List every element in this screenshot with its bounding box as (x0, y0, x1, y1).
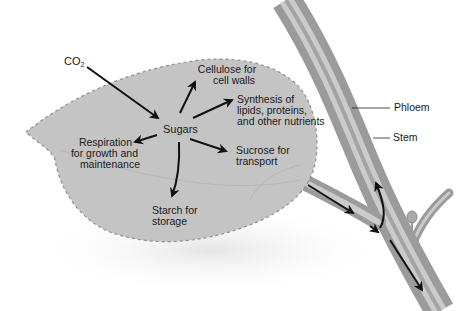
bud (407, 211, 417, 223)
sugars-text: Sugars (163, 123, 198, 135)
respiration-line3: maintenance (62, 159, 140, 170)
label-cellulose: Cellulose for cell walls (186, 64, 268, 86)
synthesis-line3: and other nutrients (237, 116, 325, 127)
cellulose-line2: cell walls (186, 75, 268, 86)
co2-subscript: 2 (81, 61, 85, 68)
label-respiration: Respiration for growth and maintenance (62, 137, 140, 170)
label-co2: CO2 (64, 56, 84, 70)
phloem-text: Phloem (394, 101, 430, 113)
label-synthesis: Synthesis of lipids, proteins, and other… (237, 94, 325, 127)
label-stem: Stem (393, 132, 418, 143)
sucrose-line2: transport (236, 156, 290, 167)
stem-text: Stem (393, 131, 418, 143)
co2-text: CO (64, 55, 81, 67)
starch-line2: storage (152, 216, 198, 227)
label-sugars: Sugars (163, 124, 198, 135)
label-phloem: Phloem (394, 102, 430, 113)
label-sucrose: Sucrose for transport (236, 145, 290, 167)
label-starch: Starch for storage (152, 205, 198, 227)
